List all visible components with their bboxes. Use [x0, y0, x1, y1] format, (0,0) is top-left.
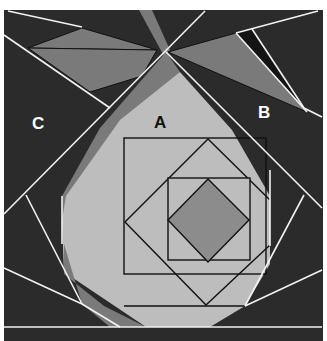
diagram-canvas: C A B	[0, 0, 327, 341]
label-a: A	[154, 113, 166, 132]
label-c: C	[32, 114, 44, 133]
label-b: B	[258, 103, 270, 122]
quilt-block-diagram: C A B	[0, 0, 327, 341]
